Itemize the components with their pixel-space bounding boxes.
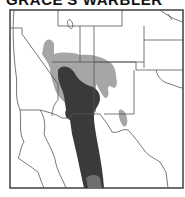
range-map [0, 0, 185, 197]
